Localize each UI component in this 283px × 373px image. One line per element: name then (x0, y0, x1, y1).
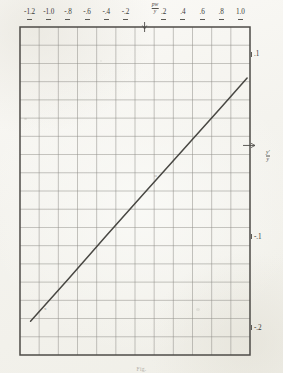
y-tick-label: -.1 (254, 233, 261, 241)
x-tick-mark (238, 19, 243, 20)
y-tick-mark (251, 325, 252, 330)
y-tick-label: -.2 (254, 324, 261, 332)
x-tick-mark (85, 19, 90, 20)
x-tick-label: 1.0 (236, 8, 245, 16)
x-tick-mark (27, 19, 32, 20)
x-tick-label: -.8 (64, 8, 71, 16)
figure-caption: Fig. (137, 366, 147, 372)
y-axis-variable-denominator: y (266, 157, 270, 163)
x-tick-mark (46, 19, 51, 20)
x-tick-mark (180, 19, 185, 20)
x-tick-label: .6 (199, 8, 204, 16)
x-tick-label: -.2 (122, 8, 129, 16)
x-axis-variable-denominator: y (152, 9, 159, 15)
svg-text:x: x (44, 306, 47, 311)
plot-area: xo· (20, 27, 250, 355)
x-tick-mark (219, 19, 224, 20)
x-tick-label: .8 (219, 8, 224, 16)
x-tick-label: -1.0 (43, 8, 54, 16)
x-tick-label: .4 (180, 8, 185, 16)
svg-text:o: o (154, 173, 157, 178)
figure-page: -1.2-1.0-.8-.6-.4-.2.2.4.6.81.0 .1-.1-.2… (0, 0, 283, 373)
y-tick-label: .1 (254, 50, 259, 58)
y-tick-mark (251, 52, 252, 57)
x-tick-mark (123, 19, 128, 20)
x-tick-mark (161, 19, 166, 20)
x-tick-mark (200, 19, 205, 20)
x-tick-mark (65, 19, 70, 20)
y-axis-variable-numerator: y' (266, 150, 270, 156)
y-axis-variable-label: y' y (266, 150, 270, 163)
x-axis-variable-label: pw y (152, 2, 159, 15)
y-tick-mark (251, 234, 252, 239)
data-curve: xo· (20, 27, 250, 355)
x-tick-mark (104, 19, 109, 20)
x-tick-label: -1.2 (24, 8, 35, 16)
x-tick-label: -.4 (102, 8, 109, 16)
x-tick-label: .2 (161, 8, 166, 16)
x-axis-variable-numerator: pw (152, 2, 159, 8)
x-tick-label: -.6 (83, 8, 90, 16)
